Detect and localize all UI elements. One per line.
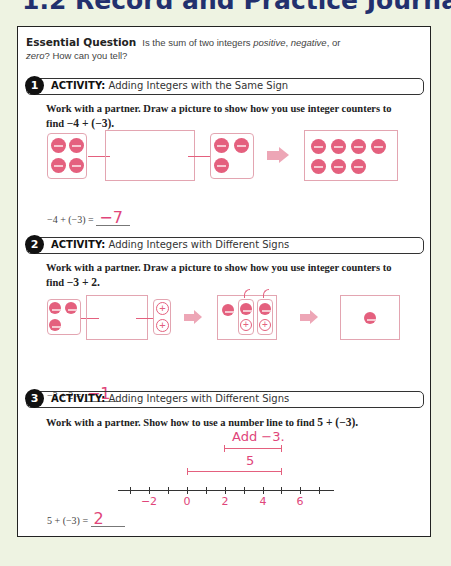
activity-1-header: 1 ACTIVITY: Adding Integers with the Sam… [26,78,424,95]
tick [244,487,245,494]
counter-group-positive: + + [153,299,171,335]
worksheet: Essential QuestionIs the sum of two inte… [17,26,431,537]
negative-counter [51,158,66,173]
eq-text: Is the sum of two integers [142,37,253,48]
zero-pair: + [257,299,273,335]
tick-label: 0 [177,495,197,508]
essential-question-label: Essential Question [26,36,136,48]
tick [206,487,207,494]
zero-pair: + [238,299,254,335]
activity-title-text: Adding Integers with the Same Sign [108,80,288,91]
eq-zero: zero [26,50,44,61]
arrow-end-mark [281,468,282,475]
negative-counter [69,158,84,173]
activity-title-text: Adding Integers with Different Signs [108,393,289,404]
eq-positive: positive [253,37,285,48]
activity-title-text: Adding Integers with Different Signs [108,239,289,250]
positive-counter: + [156,302,169,315]
tick [281,487,282,494]
combine-box [105,130,195,181]
activity-1-instruction: Work with a partner. Draw a picture to s… [46,102,406,131]
tick [149,487,150,494]
activity-number-badge: 2 [25,235,44,254]
instruction-expression: −4 + (−3). [67,117,114,129]
result-box [304,130,398,181]
activity-1-answer: −4 + (−3) = −7 [47,210,130,226]
negative-counter [311,159,326,174]
tick [225,487,226,494]
negative-counter [65,302,77,314]
activity-number-badge: 1 [25,76,44,95]
counter-group-b [210,133,254,179]
negative-counter [331,139,346,154]
negative-counter [49,319,61,331]
essential-question: Essential QuestionIs the sum of two inte… [26,36,426,62]
zero-pair-box: + + [217,295,277,340]
activity-title: ACTIVITY: Adding Integers with the Same … [51,80,288,91]
negative-counter [214,138,229,153]
negative-counter [49,302,61,314]
tick-label: 4 [253,495,273,508]
tick-label: 2 [215,495,235,508]
activity-title: ACTIVITY: Adding Integers with Different… [51,393,289,404]
answer-value[interactable]: −7 [96,210,130,226]
activity-2-instruction: Work with a partner. Draw a picture to s… [46,261,406,290]
positive-counter: + [259,319,271,331]
answer-prefix: −4 + (−3) = [47,214,94,225]
tick [130,487,131,494]
positive-counter: + [240,319,252,331]
instruction-text: Work with a partner. Show how to use a n… [46,417,315,428]
negative-counter [351,159,366,174]
negative-counter [364,312,376,324]
activity-number-badge: 3 [25,389,44,408]
negative-counter [331,159,346,174]
positive-counter: + [156,319,169,332]
number-line [118,490,334,491]
negative-counter [371,139,386,154]
five-arrow [187,471,282,472]
page-title: 1.2 Record and Practice Journal [22,0,451,15]
negative-counter [351,139,366,154]
zero-pair-mark-icon [244,289,250,298]
negative-counter [51,138,66,153]
activity-label: ACTIVITY: [51,239,105,250]
negative-counter [214,158,229,173]
eq-text: ? How can you tell? [44,50,127,61]
arrow-start-mark [224,445,225,452]
tick [168,487,169,494]
zero-pair-mark-icon [263,289,269,298]
activity-label: ACTIVITY: [51,80,105,91]
activity-label: ACTIVITY: [51,393,105,404]
instruction-expression: 5 + (−3). [317,416,358,428]
arrow-left-icon [136,318,153,319]
negative-counter [222,304,234,316]
tick [187,487,188,494]
tick [300,487,301,494]
negative-counter [259,303,271,315]
counter-group-a [47,133,87,179]
arrow-end-mark [281,445,282,452]
arrow-left-icon [188,156,210,157]
activity-3-header: 3 ACTIVITY: Adding Integers with Differe… [26,391,424,408]
tick-label: −2 [139,495,159,508]
negative-counter [234,138,249,153]
activity-3-instruction: Work with a partner. Show how to use a n… [46,415,406,430]
five-label: 5 [246,453,254,468]
answer-value[interactable]: 2 [91,511,125,527]
answer-prefix: 5 + (−3) = [47,515,88,526]
eq-negative: negative [291,37,327,48]
negative-counter [69,138,84,153]
negative-counter [311,139,326,154]
tick-label: 6 [290,495,310,508]
activity-3-answer: 5 + (−3) = 2 [47,511,125,527]
eq-sep: , or [327,37,341,48]
tick [319,487,320,494]
negative-counter [240,303,252,315]
arrow-start-mark [187,468,188,475]
add-label: Add −3. [232,429,285,444]
tick [263,487,264,494]
activity-2-header: 2 ACTIVITY: Adding Integers with Differe… [26,237,424,254]
counter-group-negative [47,299,81,335]
result-box [340,295,400,340]
add-neg3-arrow [225,448,282,449]
